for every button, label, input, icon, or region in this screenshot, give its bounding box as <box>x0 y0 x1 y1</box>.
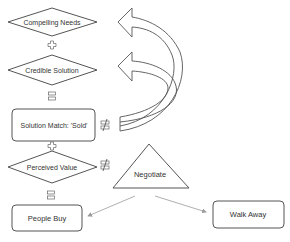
negotiate-label: Negotiate <box>134 170 166 179</box>
credible-solution-label: Credible Solution <box>25 67 78 74</box>
people-buy-label: People Buy <box>28 214 66 223</box>
perceived-value-label: Perceived Value <box>27 164 77 171</box>
compelling-needs-label: Compelling Needs <box>23 19 80 26</box>
equals-icon <box>48 191 55 199</box>
curved-arrow-to-compelling-needs <box>118 8 183 131</box>
curved-arrow-to-credible-solution <box>118 52 177 122</box>
equals-icon <box>49 92 56 100</box>
negotiate-triangle <box>113 144 189 188</box>
arrow-to-people-buy <box>88 196 135 216</box>
solution-match-label: Solution Match: 'Sold' <box>21 122 88 129</box>
not-equal-icon <box>101 159 109 171</box>
arrow-to-walk-away <box>155 196 206 212</box>
plus-icon <box>48 41 56 49</box>
walk-away-label: Walk Away <box>230 210 266 219</box>
plus-icon <box>48 142 56 150</box>
not-equal-icon <box>101 119 109 131</box>
